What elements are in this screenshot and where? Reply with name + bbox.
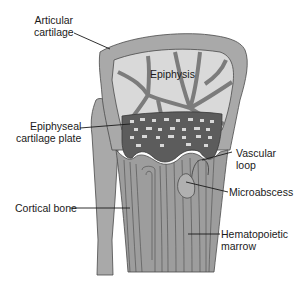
label-vascular-loop-line1: Vascular (236, 147, 276, 159)
label-articular-cartilage-line2: cartilage (34, 26, 74, 38)
label-hematopoietic-marrow: Hematopoietic marrow (221, 228, 288, 252)
label-hematopoietic-marrow-line1: Hematopoietic (221, 228, 288, 240)
label-cortical-bone: Cortical bone (15, 202, 77, 214)
label-articular-cartilage: Articular cartilage (34, 14, 74, 38)
bone-diagram: Articular cartilage Epiphysis Epiphyseal… (0, 0, 303, 286)
label-vascular-loop: Vascular loop (236, 147, 276, 171)
label-microabscess: Microabscess (229, 186, 293, 198)
label-epiphyseal-plate-line2: cartilage plate (16, 132, 81, 144)
label-vascular-loop-line2: loop (236, 159, 276, 171)
label-articular-cartilage-line1: Articular (34, 14, 74, 26)
label-epiphysis: Epiphysis (150, 68, 195, 80)
label-hematopoietic-marrow-line2: marrow (221, 240, 288, 252)
label-epiphyseal-plate-line1: Epiphyseal (16, 120, 81, 132)
label-epiphyseal-plate: Epiphyseal cartilage plate (16, 120, 81, 144)
